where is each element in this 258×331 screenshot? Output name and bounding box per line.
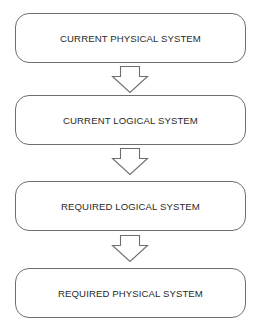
stage-label: CURRENT LOGICAL SYSTEM — [63, 115, 198, 126]
down-arrow-icon — [110, 148, 150, 176]
down-arrow-icon — [110, 66, 150, 94]
stage-label: REQUIRED LOGICAL SYSTEM — [61, 201, 200, 212]
stage-required-physical-system: REQUIRED PHYSICAL SYSTEM — [15, 268, 246, 318]
stage-required-logical-system: REQUIRED LOGICAL SYSTEM — [15, 181, 246, 231]
stage-label: REQUIRED PHYSICAL SYSTEM — [58, 288, 203, 299]
stage-label: CURRENT PHYSICAL SYSTEM — [60, 33, 201, 44]
stage-current-logical-system: CURRENT LOGICAL SYSTEM — [15, 95, 246, 145]
down-arrow-icon — [110, 235, 150, 263]
stage-current-physical-system: CURRENT PHYSICAL SYSTEM — [15, 13, 246, 63]
